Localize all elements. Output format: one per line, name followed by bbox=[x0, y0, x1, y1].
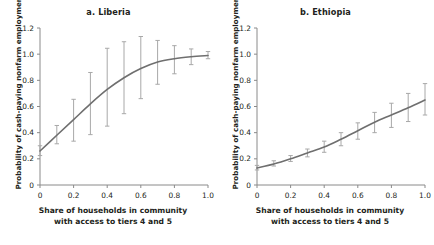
y-tick-label-ethiopia: 0.6 bbox=[239, 102, 251, 111]
panel-ethiopia: b. Ethiopia Probability of cash-paying n… bbox=[217, 0, 434, 245]
x-tick-label-liberia: 1.0 bbox=[202, 191, 214, 200]
x-axis-label-line2: with access to tiers 4 and 5 bbox=[18, 217, 208, 228]
x-tick-label-ethiopia: 0.4 bbox=[318, 191, 330, 200]
x-tick-label-liberia: 0 bbox=[38, 191, 43, 200]
x-tick-label-ethiopia: 0.8 bbox=[386, 191, 398, 200]
x-tick-label-ethiopia: 0 bbox=[255, 191, 260, 200]
x-tick-label-ethiopia: 0.6 bbox=[352, 191, 364, 200]
x-tick-label-liberia: 0.2 bbox=[68, 191, 80, 200]
x-tick-label-liberia: 0.6 bbox=[135, 191, 147, 200]
x-axis-label-line2: with access to tiers 4 and 5 bbox=[235, 217, 425, 228]
y-tick-label-ethiopia: 0.8 bbox=[239, 76, 251, 85]
y-tick-label-liberia: 0.6 bbox=[22, 102, 34, 111]
y-tick-label-liberia: 0 bbox=[29, 181, 34, 190]
x-tick-label-liberia: 0.8 bbox=[169, 191, 181, 200]
y-tick-label-liberia: 0.8 bbox=[22, 76, 34, 85]
y-tick-label-ethiopia: 0 bbox=[246, 181, 251, 190]
figure-two-panel-chart: a. Liberia Probability of cash-paying no… bbox=[0, 0, 434, 245]
x-tick-label-ethiopia: 0.2 bbox=[285, 191, 297, 200]
y-tick-label-liberia: 0.4 bbox=[22, 128, 34, 137]
y-tick-label-liberia: 1.0 bbox=[22, 50, 34, 59]
y-tick-label-ethiopia: 1.0 bbox=[239, 50, 251, 59]
panel-liberia: a. Liberia Probability of cash-paying no… bbox=[0, 0, 217, 245]
x-axis-label-liberia: Share of households in community with ac… bbox=[18, 206, 208, 227]
x-axis-label-ethiopia: Share of households in community with ac… bbox=[235, 206, 425, 227]
y-tick-label-ethiopia: 0.4 bbox=[239, 128, 251, 137]
x-tick-label-liberia: 0.4 bbox=[101, 191, 113, 200]
x-axis-label-line1: Share of households in community bbox=[235, 206, 425, 217]
x-tick-label-ethiopia: 1.0 bbox=[419, 191, 431, 200]
y-tick-label-liberia: 0.2 bbox=[22, 154, 34, 163]
error-bar-liberia bbox=[105, 48, 109, 126]
y-tick-label-liberia: 1.2 bbox=[22, 24, 34, 33]
y-tick-label-ethiopia: 1.2 bbox=[239, 24, 251, 33]
y-tick-label-ethiopia: 0.2 bbox=[239, 154, 251, 163]
x-axis-label-line1: Share of households in community bbox=[18, 206, 208, 217]
